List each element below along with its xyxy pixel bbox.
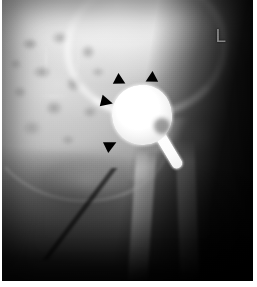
xray-figure: L [0,0,257,287]
radiograph-plate: L [2,0,253,281]
vignette-overlay [2,0,253,281]
